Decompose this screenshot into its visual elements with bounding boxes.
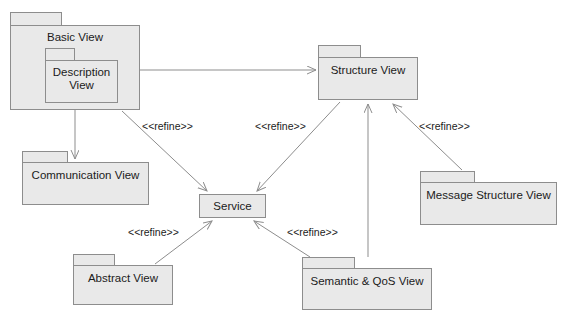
package-label-communication-view: Communication View xyxy=(22,169,149,182)
edge-label-refine-semantic-service: <<refine>> xyxy=(287,226,338,238)
package-label-semantic-qos-view: Semantic & QoS View xyxy=(302,275,432,288)
edge-label-refine-abstract-service: <<refine>> xyxy=(128,226,179,238)
package-body-abstract-view xyxy=(73,265,173,305)
node-label-service: Service xyxy=(199,200,266,213)
edge-structure-to-service xyxy=(257,102,340,191)
edge-label-refine-basic-service: <<refine>> xyxy=(142,120,193,132)
package-label-basic-view: Basic View xyxy=(10,31,140,44)
package-label-message-structure-view: Message Structure View xyxy=(420,189,557,202)
diagram-canvas: Basic ViewDescription ViewStructure View… xyxy=(0,0,569,326)
edge-label-refine-message-structure: <<refine>> xyxy=(419,120,470,132)
edge-label-refine-structure-service: <<refine>> xyxy=(255,120,306,132)
package-tab-basic-view xyxy=(10,12,62,26)
package-label-structure-view: Structure View xyxy=(318,64,418,77)
package-label-abstract-view: Abstract View xyxy=(73,272,173,285)
edge-message-to-structure xyxy=(393,104,462,170)
package-label-description-view: Description View xyxy=(45,66,118,92)
